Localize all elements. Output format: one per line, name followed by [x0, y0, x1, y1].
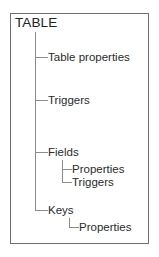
node-label-keys-properties: Properties	[79, 221, 131, 233]
node-label-table-properties: Table properties	[48, 51, 130, 63]
table-hierarchy-diagram: TABLE Table properties Triggers Fields P…	[0, 0, 159, 257]
node-label-triggers: Triggers	[48, 94, 90, 106]
node-label-fields-properties: Properties	[72, 163, 124, 175]
node-label-keys: Keys	[48, 204, 74, 216]
node-label-fields-triggers: Triggers	[72, 176, 114, 188]
diagram-frame	[10, 13, 149, 244]
node-label-fields: Fields	[48, 146, 79, 158]
node-label-root: TABLE	[15, 17, 57, 29]
